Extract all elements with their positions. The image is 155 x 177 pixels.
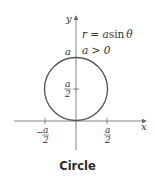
y-half-num: a <box>65 79 70 89</box>
x-neg-den: 2 <box>42 135 49 145</box>
x-neg-num: a <box>43 125 48 135</box>
polar-graph: y x r = asinθ a > 0 a a 2 − a 2 a 2 <box>0 0 155 177</box>
y-axis-label: y <box>65 13 72 24</box>
equation-lhs: r = asinθ <box>82 28 133 40</box>
y-half-den: 2 <box>64 89 71 99</box>
figure-caption: Circle <box>0 159 155 173</box>
x-pos-den: 2 <box>104 135 111 145</box>
condition-label: a > 0 <box>82 44 111 56</box>
y-top-label: a <box>65 46 71 57</box>
x-axis-label: x <box>141 121 147 132</box>
x-pos-num: a <box>105 125 110 135</box>
